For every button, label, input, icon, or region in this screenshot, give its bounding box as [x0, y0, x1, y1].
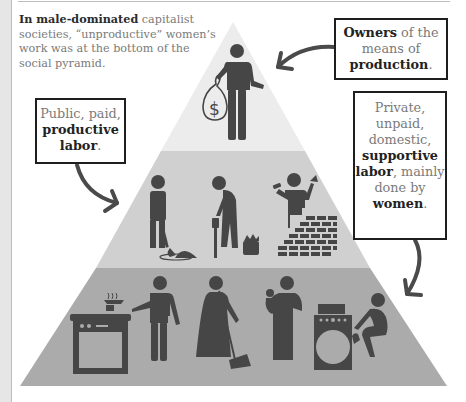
public-period: .: [97, 138, 101, 153]
owners-period: .: [428, 57, 432, 72]
private-labor-box: Private, unpaid, domestic, supportive la…: [353, 91, 447, 240]
private-text: Private, unpaid, domestic,: [369, 100, 432, 147]
svg-text:$: $: [209, 99, 220, 119]
intro-caption: In male-dominated capitalist societies, …: [19, 12, 219, 71]
owners-label-box: Owners of the means of production.: [334, 18, 448, 80]
public-text: Public, paid,: [40, 106, 121, 121]
production-bold: production: [350, 57, 429, 72]
owners-bold: Owners: [343, 25, 397, 40]
arrow-to-bottom-tier-icon: [407, 240, 420, 294]
public-labor-box: Public, paid, productive labor.: [35, 98, 126, 164]
private-period: .: [423, 196, 427, 211]
caption-bold: In male-dominated: [19, 12, 138, 26]
productive-labor-bold: productive labor: [42, 122, 119, 153]
arrow-to-middle-tier-icon: [77, 165, 117, 203]
arrow-to-owners-icon: [278, 47, 334, 67]
women-bold: women: [373, 196, 424, 211]
